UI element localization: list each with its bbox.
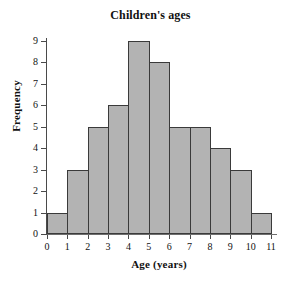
plot-area — [47, 41, 271, 234]
histogram-figure: Children's ages Frequency Age (years) 01… — [0, 0, 301, 282]
x-axis-tick — [149, 235, 150, 239]
x-axis-tick — [128, 235, 129, 239]
chart-title: Children's ages — [0, 8, 301, 22]
y-axis-tick-label: 7 — [22, 79, 38, 89]
x-axis-tick — [230, 235, 231, 239]
x-axis-tick — [210, 235, 211, 239]
histogram-bar — [128, 41, 149, 234]
x-axis-tick — [47, 235, 48, 239]
y-axis-tick-label: 0 — [22, 229, 38, 239]
y-axis-tick — [41, 105, 46, 106]
y-axis-tick-label: 9 — [22, 36, 38, 46]
histogram-bar — [149, 62, 170, 234]
histogram-bar — [190, 127, 211, 234]
histogram-bar — [169, 127, 190, 234]
x-axis-title: Age (years) — [47, 258, 271, 270]
x-axis-tick — [88, 235, 89, 239]
y-axis-tick — [41, 213, 46, 214]
y-axis-tick-label: 2 — [22, 186, 38, 196]
x-axis-tick — [190, 235, 191, 239]
y-axis-tick-label: 6 — [22, 100, 38, 110]
y-axis-tick-label: 5 — [22, 122, 38, 132]
x-axis-tick — [169, 235, 170, 239]
y-axis-tick — [41, 84, 46, 85]
histogram-bar — [67, 170, 88, 234]
y-axis-tick — [41, 170, 46, 171]
x-axis-tick-label: 11 — [259, 241, 283, 252]
y-axis-tick — [41, 41, 46, 42]
y-axis-tick-label: 8 — [22, 57, 38, 67]
y-axis-tick — [41, 191, 46, 192]
y-axis-tick-label: 3 — [22, 165, 38, 175]
histogram-bar — [230, 170, 251, 234]
x-axis-tick — [67, 235, 68, 239]
y-axis-tick — [41, 234, 46, 235]
histogram-bar — [251, 213, 272, 234]
x-axis-line — [47, 234, 277, 235]
histogram-bar — [47, 213, 68, 234]
x-axis-tick — [108, 235, 109, 239]
y-axis-title: Frequency — [10, 46, 22, 166]
histogram-bar — [108, 105, 129, 234]
y-axis-tick — [41, 127, 46, 128]
y-axis-tick-label: 1 — [22, 208, 38, 218]
histogram-bar — [210, 148, 231, 234]
y-axis-tick — [41, 148, 46, 149]
y-axis-tick — [41, 62, 46, 63]
x-axis-tick — [271, 235, 272, 239]
x-axis-tick — [251, 235, 252, 239]
histogram-bar — [88, 127, 109, 234]
y-axis-tick-label: 4 — [22, 143, 38, 153]
